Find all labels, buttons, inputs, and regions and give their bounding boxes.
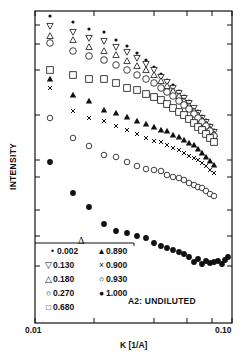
legend-item: ●1.000	[97, 288, 127, 298]
x-tick-label-min: 0.01	[25, 325, 42, 335]
legend-label: 0.890	[106, 246, 127, 256]
data-points	[47, 14, 231, 267]
legend-marker-icon: ×	[97, 260, 106, 270]
x-tick-label-max: 0.10	[215, 325, 232, 335]
legend-marker-icon: •	[48, 246, 57, 256]
legend-item: ○0.270	[44, 288, 74, 298]
legend-item: ▽0.130	[44, 260, 74, 270]
legend-marker-icon: ●	[97, 288, 106, 298]
legend-label: 0.270	[53, 288, 74, 298]
legend-marker-icon: ○	[97, 274, 106, 284]
legend-marker-icon: □	[44, 302, 53, 312]
legend-item: △0.180	[44, 274, 74, 284]
x-axis-label: K [1/A]	[120, 340, 147, 350]
y-axis-label: INTENSITY	[8, 130, 18, 190]
legend-label: 0.180	[53, 274, 74, 284]
legend-title: Δ	[78, 235, 84, 246]
series-0.900	[48, 86, 216, 175]
legend-label: 0.002	[57, 246, 78, 256]
legend-item: ▲0.890	[97, 246, 127, 256]
legend-marker-icon: △	[44, 274, 53, 284]
legend-label: 0.130	[53, 260, 74, 270]
scattering-chart	[0, 0, 249, 353]
legend-item: •0.002	[48, 246, 78, 256]
legend-marker-icon: ▲	[97, 246, 106, 256]
legend-item: □0.680	[44, 302, 74, 312]
legend-item: ○0.930	[97, 274, 127, 284]
legend-label: 1.000	[106, 288, 127, 298]
series-0.930	[47, 115, 217, 199]
legend-label: 0.930	[106, 274, 127, 284]
sample-annotation: A2: UNDILUTED	[128, 296, 196, 306]
legend-marker-icon: ▽	[44, 260, 53, 270]
legend-marker-icon: ○	[44, 288, 53, 298]
legend-item: ×0.900	[97, 260, 127, 270]
legend-label: 0.680	[53, 302, 74, 312]
legend-label: 0.900	[106, 260, 127, 270]
